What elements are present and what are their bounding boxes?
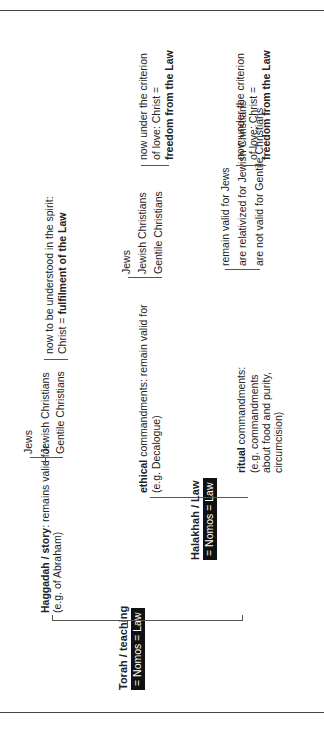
bracket-tick bbox=[52, 615, 53, 621]
group-jews: Jews bbox=[23, 430, 35, 454]
root-bracket bbox=[52, 620, 243, 621]
group-jews: Jews bbox=[121, 250, 133, 274]
group-gentile-christians: Gentile Christians bbox=[153, 191, 165, 274]
top-rule bbox=[0, 10, 324, 11]
haggadah-result: now to be understood in the spirit: bbox=[44, 196, 56, 354]
group-gentile-christians: Gentile Christians bbox=[55, 371, 67, 454]
diagram-canvas: Torah / teaching = Nomos = Law Haggadah … bbox=[0, 0, 324, 748]
ethical-result: now under the criterion bbox=[138, 53, 150, 160]
ritual-result: now under the criterion bbox=[235, 53, 247, 160]
ethical-example: (e.g. Decalogue) bbox=[151, 415, 163, 493]
ethical-result-bold: freedom from the Law bbox=[164, 50, 176, 160]
haggadah-label: Haggadah / story: remains valid for bbox=[40, 445, 52, 613]
halakhah-box: = Nomos = Law bbox=[203, 478, 217, 560]
bracket-tick bbox=[242, 615, 243, 621]
ethical-label: ethical commandments: remain valid for bbox=[138, 305, 150, 494]
groups-bracket bbox=[30, 457, 63, 458]
haggadah-example: (e.g. of Abraham) bbox=[52, 532, 64, 613]
ritual-example-1: (e.g. commandments bbox=[249, 374, 261, 473]
result-bracket bbox=[236, 165, 266, 166]
ritual-label: ritual commandments: bbox=[236, 367, 248, 473]
group-jewish-christians: Jewish Christians bbox=[40, 372, 52, 454]
bracket-stem bbox=[127, 621, 128, 628]
bottom-rule bbox=[0, 712, 324, 713]
haggadah-result-2: Christ = fulfilment of the Law bbox=[57, 213, 69, 354]
groups-bracket bbox=[128, 277, 162, 278]
items-bracket bbox=[225, 269, 260, 270]
result-bracket bbox=[141, 165, 169, 166]
result-bracket bbox=[44, 359, 68, 360]
ritual-item: remain valid for Jews bbox=[220, 167, 232, 266]
torah-title: Torah / teaching bbox=[118, 606, 130, 690]
bracket-stem bbox=[45, 458, 46, 464]
halakhah-title: Halakhah / Law bbox=[190, 481, 202, 560]
ritual-result-bold: freedom from the Law bbox=[261, 50, 273, 160]
group-jewish-christians: Jewish Christians bbox=[137, 192, 149, 274]
ethical-result-2: of love: Christ = bbox=[151, 87, 163, 160]
ritual-example-3: circumcision) bbox=[273, 412, 285, 473]
ritual-result-2: of love: Christ = bbox=[248, 87, 260, 160]
halakhah-bracket bbox=[150, 497, 248, 498]
ritual-example-2: about food and purity, bbox=[261, 372, 273, 473]
